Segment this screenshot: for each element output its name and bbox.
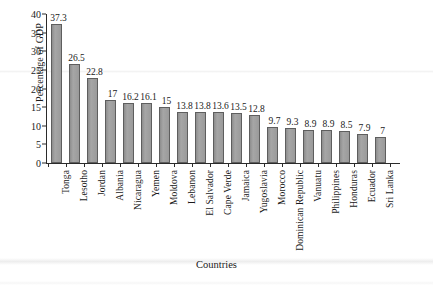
bar bbox=[69, 64, 80, 163]
bar bbox=[105, 100, 116, 163]
x-category-label: Albania bbox=[115, 170, 125, 201]
x-tick-mark bbox=[210, 163, 211, 167]
bar-chart-figure: Percentage of GDP 0510152025303540 37.32… bbox=[0, 0, 433, 290]
bar bbox=[195, 112, 206, 163]
x-category-label: Moldova bbox=[169, 170, 179, 205]
bar-value-label: 12.8 bbox=[248, 104, 265, 114]
scan-artifact-band bbox=[0, 281, 433, 285]
plot-area: 0510152025303540 37.326.522.81716.216.11… bbox=[46, 14, 418, 163]
x-category-label: Vanuatu bbox=[313, 170, 323, 202]
bar bbox=[51, 24, 62, 163]
x-category-label: Tonga bbox=[61, 170, 71, 194]
y-tick-mark bbox=[42, 69, 46, 70]
x-axis-title: Countries bbox=[0, 259, 433, 270]
bar bbox=[87, 78, 98, 163]
bar-value-label: 9.3 bbox=[287, 117, 299, 127]
bar-value-label: 22.8 bbox=[86, 67, 103, 77]
x-tick-mark bbox=[390, 163, 391, 167]
y-tick-mark bbox=[42, 51, 46, 52]
bar bbox=[123, 103, 134, 163]
y-tick-mark bbox=[42, 32, 46, 33]
bar-value-label: 13.8 bbox=[176, 101, 193, 111]
bar bbox=[285, 128, 296, 163]
x-category-label: Philippines bbox=[331, 170, 341, 214]
x-tick-mark bbox=[336, 163, 337, 167]
x-tick-mark bbox=[48, 163, 49, 167]
bar bbox=[177, 112, 188, 163]
bar-value-label: 16.1 bbox=[140, 92, 157, 102]
y-tick-mark bbox=[42, 163, 46, 164]
bar bbox=[231, 113, 242, 163]
x-tick-mark bbox=[282, 163, 283, 167]
x-category-label: Morocco bbox=[277, 170, 287, 205]
y-tick-mark bbox=[42, 144, 46, 145]
y-tick-mark bbox=[42, 14, 46, 15]
x-category-label: Cape Verde bbox=[223, 170, 233, 215]
x-tick-mark bbox=[228, 163, 229, 167]
x-tick-mark bbox=[84, 163, 85, 167]
bar bbox=[141, 103, 152, 163]
x-tick-mark bbox=[300, 163, 301, 167]
x-tick-mark bbox=[174, 163, 175, 167]
x-tick-mark bbox=[156, 163, 157, 167]
x-category-label: Dominican Republic bbox=[295, 170, 305, 251]
bar-value-label: 17 bbox=[108, 89, 118, 99]
x-category-label: Yemen bbox=[151, 170, 161, 197]
bar-value-label: 15 bbox=[162, 96, 172, 106]
x-tick-mark bbox=[138, 163, 139, 167]
x-category-label: Yugoslavia bbox=[259, 170, 269, 213]
x-tick-mark bbox=[354, 163, 355, 167]
x-tick-mark bbox=[246, 163, 247, 167]
x-category-label: Ecuador bbox=[367, 170, 377, 202]
bar-value-label: 7.9 bbox=[359, 123, 371, 133]
bar-value-label: 26.5 bbox=[68, 53, 85, 63]
bar bbox=[213, 112, 224, 163]
x-tick-mark bbox=[318, 163, 319, 167]
bar-value-label: 9.7 bbox=[269, 116, 281, 126]
x-tick-mark bbox=[264, 163, 265, 167]
x-category-label: Jamaica bbox=[241, 170, 251, 201]
bar bbox=[249, 115, 260, 163]
bar bbox=[267, 127, 278, 163]
bar bbox=[321, 130, 332, 163]
bar-value-label: 7 bbox=[380, 126, 385, 136]
x-category-label: Lebanon bbox=[187, 170, 197, 204]
y-tick-mark bbox=[42, 107, 46, 108]
x-tick-mark bbox=[102, 163, 103, 167]
x-tick-mark bbox=[66, 163, 67, 167]
bar-value-label: 13.6 bbox=[212, 101, 229, 111]
x-category-label: Honduras bbox=[349, 170, 359, 208]
bar-value-label: 37.3 bbox=[50, 13, 67, 23]
x-tick-mark bbox=[120, 163, 121, 167]
bar bbox=[303, 130, 314, 163]
bar-value-label: 8.9 bbox=[323, 119, 335, 129]
bar bbox=[375, 137, 386, 163]
bar-value-label: 8.9 bbox=[305, 119, 317, 129]
x-category-label: Jordan bbox=[97, 170, 107, 196]
x-tick-mark bbox=[372, 163, 373, 167]
x-category-label: Lesotho bbox=[79, 170, 89, 201]
x-category-label: Nicaragua bbox=[133, 170, 143, 210]
x-category-label: El Salvador bbox=[205, 170, 215, 216]
y-tick-mark bbox=[42, 125, 46, 126]
x-category-label: Sri Lanka bbox=[385, 170, 395, 208]
bar-value-label: 13.5 bbox=[230, 102, 247, 112]
bar bbox=[357, 134, 368, 163]
bar bbox=[159, 107, 170, 163]
bar-value-label: 8.5 bbox=[341, 120, 353, 130]
y-tick-mark bbox=[42, 88, 46, 89]
x-tick-mark bbox=[192, 163, 193, 167]
x-axis-line bbox=[46, 163, 400, 164]
bar-value-label: 16.2 bbox=[122, 92, 139, 102]
bar bbox=[339, 131, 350, 163]
bar-value-label: 13.8 bbox=[194, 101, 211, 111]
